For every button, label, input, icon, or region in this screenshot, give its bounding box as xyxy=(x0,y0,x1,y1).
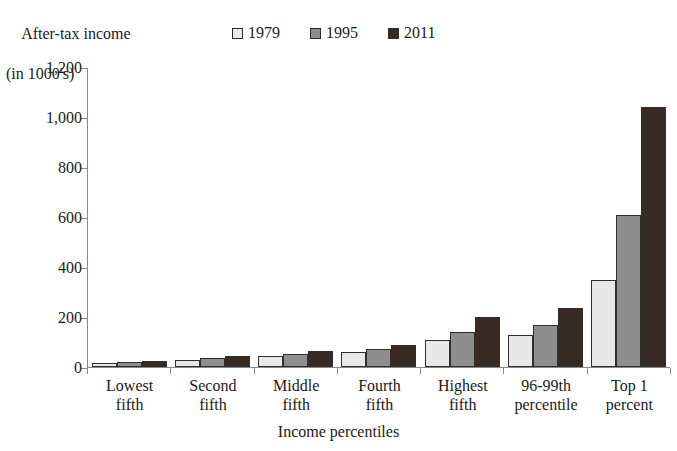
bar-2011 xyxy=(142,361,167,367)
x-label: Fourthfifth xyxy=(338,376,421,414)
x-tick-mark xyxy=(337,368,338,374)
bar-group xyxy=(504,68,587,367)
legend-label: 1995 xyxy=(326,25,358,41)
legend-label: 2011 xyxy=(404,25,435,41)
bar-1995 xyxy=(533,325,558,368)
legend-swatch-icon xyxy=(388,28,399,39)
bar-2011 xyxy=(475,317,500,367)
y-tick-label: 0 xyxy=(74,360,82,376)
bar-1979 xyxy=(591,280,616,368)
x-label-line1: Top 1 xyxy=(611,377,648,394)
x-label-line2: fifth xyxy=(88,395,171,414)
x-label-line1: 96-99th xyxy=(521,377,571,394)
x-label: Top 1percent xyxy=(588,376,671,414)
y-tick-label: 200 xyxy=(58,310,82,326)
bar-group xyxy=(254,68,337,367)
x-tick-mark xyxy=(420,368,421,374)
bar-group xyxy=(587,68,670,367)
x-tick-mark xyxy=(670,368,671,374)
bar-1995 xyxy=(616,215,641,368)
bar-2011 xyxy=(641,107,666,367)
bar-2011 xyxy=(558,308,583,367)
bar-1979 xyxy=(258,356,283,367)
x-label: Secondfifth xyxy=(171,376,254,414)
x-label-line1: Lowest xyxy=(106,377,153,394)
x-tick-mark xyxy=(87,368,88,374)
bar-1995 xyxy=(283,354,308,368)
legend-swatch-icon xyxy=(310,28,321,39)
bar-2011 xyxy=(308,351,333,367)
bar-1979 xyxy=(425,340,450,368)
x-axis-category-labels: LowestfifthSecondfifthMiddlefifthFourthf… xyxy=(88,376,671,414)
legend-swatch-icon xyxy=(232,28,243,39)
y-tick-label: 800 xyxy=(58,160,82,176)
bar-1979 xyxy=(341,352,366,367)
bar-group xyxy=(337,68,420,367)
bar-group xyxy=(88,68,171,367)
bar-1979 xyxy=(92,363,117,367)
x-label: 96-99thpercentile xyxy=(504,376,587,414)
bar-1995 xyxy=(200,358,225,367)
x-axis-line xyxy=(87,367,670,368)
legend-item-1979: 1979 xyxy=(232,25,280,41)
x-label-line2: fifth xyxy=(255,395,338,414)
x-label: Highestfifth xyxy=(421,376,504,414)
x-label-line1: Middle xyxy=(273,377,319,394)
x-tick-mark xyxy=(503,368,504,374)
bar-1995 xyxy=(366,349,391,368)
x-label-line1: Second xyxy=(189,377,236,394)
bar-1979 xyxy=(175,360,200,368)
bar-2011 xyxy=(391,345,416,368)
legend-item-2011: 2011 xyxy=(388,25,435,41)
x-label-line1: Highest xyxy=(438,377,488,394)
bar-group xyxy=(171,68,254,367)
bar-groups xyxy=(88,68,670,367)
plot-area: 02004006008001,0001,200 xyxy=(87,68,670,368)
legend-label: 1979 xyxy=(248,25,280,41)
x-label-line2: fifth xyxy=(338,395,421,414)
y-tick-label: 400 xyxy=(58,260,82,276)
y-tick-label: 1,000 xyxy=(46,110,82,126)
bar-1995 xyxy=(117,362,142,367)
bar-2011 xyxy=(225,356,250,367)
x-label: Middlefifth xyxy=(255,376,338,414)
bar-chart: After-tax income (in 1000's) 19791995201… xyxy=(0,0,677,451)
bar-1979 xyxy=(508,335,533,368)
x-label: Lowestfifth xyxy=(88,376,171,414)
x-tick-mark xyxy=(587,368,588,374)
x-label-line2: percent xyxy=(588,395,671,414)
x-label-line2: fifth xyxy=(421,395,504,414)
legend-item-1995: 1995 xyxy=(310,25,358,41)
x-axis-title: Income percentiles xyxy=(0,423,677,441)
y-tick-label: 1,200 xyxy=(46,60,82,76)
x-label-line2: percentile xyxy=(504,395,587,414)
x-tick-mark xyxy=(254,368,255,374)
chart-legend: 197919952011 xyxy=(232,25,435,41)
y-tick-label: 600 xyxy=(58,210,82,226)
bar-group xyxy=(421,68,504,367)
x-label-line2: fifth xyxy=(171,395,254,414)
bar-1995 xyxy=(450,332,475,367)
x-label-line1: Fourth xyxy=(358,377,401,394)
x-tick-mark xyxy=(170,368,171,374)
y-axis-title-line1: After-tax income xyxy=(21,25,130,42)
